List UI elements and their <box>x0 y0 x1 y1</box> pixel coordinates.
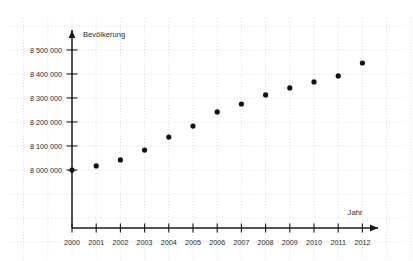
data-point <box>215 109 220 114</box>
x-tick-label: 2007 <box>233 238 249 247</box>
x-tick-label: 2000 <box>64 238 80 247</box>
y-tick-label: 8 000 000 <box>30 166 62 175</box>
x-tick-label: 2010 <box>306 238 322 247</box>
data-point <box>166 135 171 140</box>
data-point <box>142 148 147 153</box>
x-tick-label: 2002 <box>112 238 128 247</box>
x-axis-arrow-icon <box>370 225 378 232</box>
data-point <box>336 73 341 78</box>
x-tick-label: 2004 <box>161 238 177 247</box>
chart-canvas: 8 000 0008 100 0008 200 0008 300 0008 40… <box>0 0 413 261</box>
horizontal-gridlines <box>8 26 405 242</box>
data-point <box>69 167 74 172</box>
data-point <box>360 60 365 65</box>
y-axis-title: Bevölkerung <box>83 30 125 39</box>
x-tick-label: 2008 <box>258 238 274 247</box>
x-tick-label: 2012 <box>354 238 370 247</box>
y-axis-arrow-icon <box>69 30 76 38</box>
data-point <box>263 92 268 97</box>
population-scatter-chart: 8 000 0008 100 0008 200 0008 300 0008 40… <box>0 0 413 261</box>
data-point <box>190 124 195 129</box>
x-tick-label: 2009 <box>282 238 298 247</box>
data-point <box>118 157 123 162</box>
x-tick-label: 2003 <box>137 238 153 247</box>
y-tick-label: 8 500 000 <box>30 46 62 55</box>
data-point <box>239 101 244 106</box>
y-tick-label: 8 100 000 <box>30 142 62 151</box>
x-tick-label: 2006 <box>209 238 225 247</box>
x-tick-label: 2001 <box>88 238 104 247</box>
x-tick-label: 2011 <box>330 238 345 247</box>
x-tick-label: 2005 <box>185 238 201 247</box>
y-tick-label: 8 400 000 <box>30 70 62 79</box>
y-axis-tick-labels: 8 000 0008 100 0008 200 0008 300 0008 40… <box>30 46 62 175</box>
data-point <box>94 163 99 168</box>
data-point <box>311 79 316 84</box>
vertical-gridlines <box>24 18 411 258</box>
y-tick-label: 8 300 000 <box>30 94 62 103</box>
x-axis-tick-labels: 2000200120022003200420052006200720082009… <box>64 238 370 247</box>
data-point <box>287 85 292 90</box>
x-axis-title: Jahr <box>348 208 363 217</box>
y-tick-label: 8 200 000 <box>30 118 62 127</box>
